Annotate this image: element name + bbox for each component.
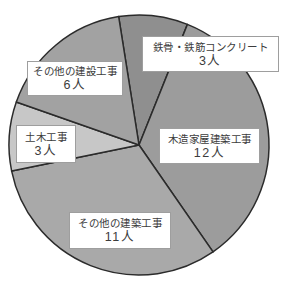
slice-name: 木造家屋建築工事 bbox=[162, 132, 257, 146]
label-steel-reinforced-concrete: 鉄骨・鉄筋コンクリート 3人 bbox=[142, 36, 279, 72]
slice-name: その他の建設工事 bbox=[30, 64, 120, 78]
label-civil-engineering: 土木工事 3人 bbox=[16, 125, 76, 163]
label-other-construction-work: その他の建設工事 6人 bbox=[27, 61, 123, 96]
slice-name: 鉄骨・鉄筋コンクリート bbox=[145, 40, 276, 54]
slice-count: 3人 bbox=[19, 144, 73, 159]
slice-name: 土木工事 bbox=[19, 130, 73, 144]
slice-name: その他の建築工事 bbox=[72, 216, 168, 230]
label-other-building-construction: その他の建築工事 11人 bbox=[69, 212, 171, 249]
label-wooden-house-construction: 木造家屋建築工事 12人 bbox=[159, 128, 260, 164]
slice-count: 12人 bbox=[162, 146, 257, 161]
slice-count: 3人 bbox=[145, 54, 276, 69]
slice-count: 6人 bbox=[30, 78, 120, 93]
slice-count: 11人 bbox=[72, 230, 168, 245]
pie-chart-figure: 鉄骨・鉄筋コンクリート 3人 木造家屋建築工事 12人 その他の建築工事 11人… bbox=[0, 0, 283, 300]
